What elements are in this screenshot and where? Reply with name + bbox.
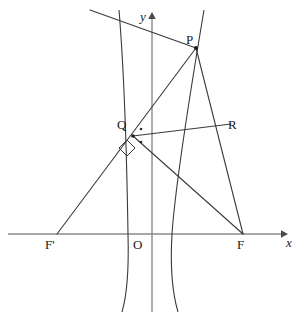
- point-label-f: F: [237, 238, 244, 251]
- x-axis-label: x: [286, 236, 292, 249]
- angle-tick-lower: [140, 141, 143, 144]
- angle-tick-upper: [140, 128, 143, 131]
- point-label-p: P: [186, 33, 193, 46]
- point-label-q: Q: [117, 118, 126, 131]
- hyperbola-left-branch: [119, 10, 128, 312]
- hyperbola-right-branch: [171, 10, 204, 312]
- points-group: [131, 46, 198, 138]
- geometry-figure: y x O P Q R F' F: [0, 0, 299, 318]
- point-label-f-prime: F': [45, 238, 55, 251]
- segment-q-to-f: [133, 136, 243, 234]
- segments-group: [57, 10, 243, 234]
- point-q-dot: [131, 134, 135, 138]
- y-axis-arrowhead: [148, 12, 156, 19]
- y-axis-label: y: [140, 10, 146, 23]
- diagram-canvas: [0, 0, 299, 318]
- point-label-r: R: [228, 118, 237, 131]
- axes-group: [8, 12, 288, 312]
- origin-label: O: [133, 238, 142, 251]
- segment-p-to-f: [196, 48, 243, 234]
- point-p-dot: [194, 46, 198, 50]
